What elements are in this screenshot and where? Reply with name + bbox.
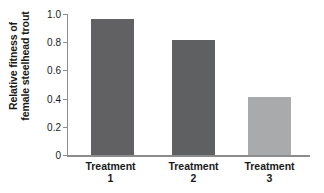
- y-tick-label-2: 0.4: [47, 93, 61, 104]
- y-tick-label-0: 0: [55, 150, 61, 161]
- x-axis-line: [67, 155, 310, 157]
- y-tick-mark-1: [63, 127, 67, 128]
- x-tick-label-1-line-2: 1: [63, 172, 158, 184]
- y-tick-mark-2: [63, 99, 67, 100]
- x-tick-label-3-line-1: Treatment: [244, 160, 294, 172]
- bar-chart-figure: Relative fitness of female steelhead tro…: [0, 0, 324, 193]
- bar-treatment-2[interactable]: [172, 40, 215, 155]
- y-tick-label-5: 1.0: [47, 9, 61, 20]
- y-tick-label-1: 0.2: [47, 121, 61, 132]
- plot-area: 0 0.2 0.4 0.6 0.8 1.0 Treatment 1 Treatm…: [67, 14, 310, 155]
- y-tick-mark-4: [63, 42, 67, 43]
- x-tick-label-3-line-2: 3: [222, 172, 317, 184]
- y-axis-title: Relative fitness of female steelhead tro…: [0, 0, 40, 142]
- bar-treatment-1[interactable]: [91, 19, 134, 155]
- y-tick-mark-0: [63, 155, 67, 156]
- bar-treatment-3[interactable]: [248, 97, 291, 155]
- x-tick-label-1-line-1: Treatment: [85, 160, 135, 172]
- x-tick-label-treatment-1: Treatment 1: [63, 160, 158, 185]
- y-tick-mark-3: [63, 70, 67, 71]
- x-tick-label-treatment-3: Treatment 3: [222, 160, 317, 185]
- y-tick-label-4: 0.8: [47, 37, 61, 48]
- y-axis-title-line-2: female steelhead trout: [20, 11, 32, 120]
- y-tick-label-3: 0.6: [47, 65, 61, 76]
- y-axis-line: [67, 14, 68, 155]
- y-tick-mark-5: [63, 14, 67, 15]
- x-tick-label-2-line-1: Treatment: [168, 160, 218, 172]
